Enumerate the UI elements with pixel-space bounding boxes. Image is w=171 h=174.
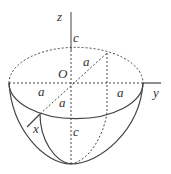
cross-section-front: [40, 114, 71, 164]
z-axis-label: z: [56, 9, 62, 24]
c-bottom-label: c: [73, 124, 79, 139]
a-upper-diag-label: a: [83, 54, 90, 69]
a-lower-diag-label: a: [59, 95, 66, 110]
c-top-label: c: [73, 30, 79, 45]
ellipse-back-dashed: [9, 47, 143, 83]
x-axis-label: x: [32, 121, 39, 136]
origin-label: O: [58, 66, 68, 81]
ellipsoid-diagram: z c O a a a y a x c: [0, 0, 171, 174]
a-right-label: a: [117, 85, 124, 100]
a-left-label: a: [38, 84, 45, 99]
y-axis-label: y: [151, 85, 159, 100]
